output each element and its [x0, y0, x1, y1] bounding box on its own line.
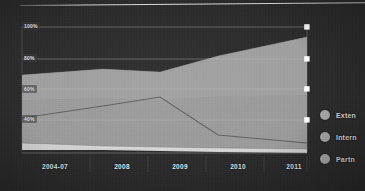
legend-item-internal[interactable]: Intern [320, 126, 357, 148]
x-axis-label-2010: 2010 [216, 163, 260, 170]
legend-item-external[interactable]: Exten [320, 104, 357, 126]
chart-legend: Exten Intern Partn [320, 104, 357, 170]
marker-80 [304, 56, 309, 61]
x-axis-label-2011: 2011 [272, 163, 316, 170]
legend-swatch-icon [320, 110, 330, 120]
legend-label-external: Exten [336, 112, 356, 119]
legend-label-partner: Partn [336, 156, 355, 163]
y-axis-label-40: 40% [22, 115, 37, 123]
y-axis-label-100: 100% [22, 22, 40, 30]
legend-item-partner[interactable]: Partn [320, 148, 357, 170]
y-axis-label-80: 80% [22, 54, 37, 62]
legend-swatch-icon [320, 132, 330, 142]
y-axis-label-60: 60% [22, 85, 37, 93]
legend-swatch-icon [320, 154, 330, 164]
legend-label-internal: Intern [336, 134, 357, 141]
x-axis-label-2004-07: 2004-07 [26, 163, 84, 170]
x-axis-label-2008: 2008 [100, 163, 144, 170]
area-band-upper-shade [22, 37, 307, 100]
marker-40 [304, 117, 309, 122]
marker-100 [304, 24, 309, 29]
marker-60 [304, 86, 309, 91]
x-axis-label-2009: 2009 [158, 163, 202, 170]
chart-screenshot: 100% 80% 60% 40% 2004-07 2008 2009 2010 … [0, 0, 365, 191]
